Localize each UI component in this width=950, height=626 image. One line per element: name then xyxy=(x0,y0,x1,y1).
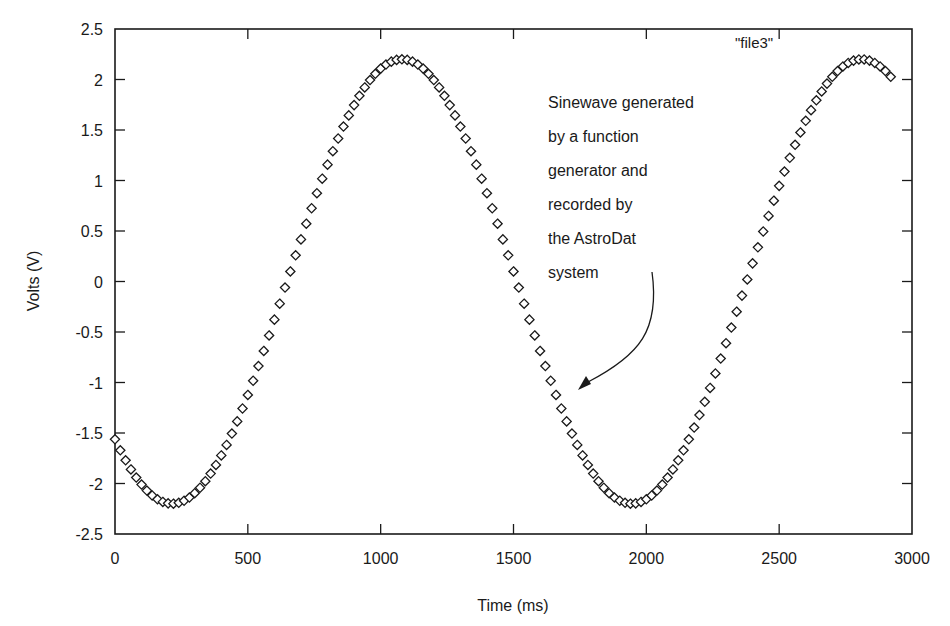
y-tick-label: -2 xyxy=(89,476,103,493)
diamond-marker-icon xyxy=(525,315,534,324)
diamond-marker-icon xyxy=(488,204,497,213)
diamond-marker-icon xyxy=(126,465,135,474)
y-tick-label: -1 xyxy=(89,375,103,392)
diamond-marker-icon xyxy=(785,153,794,162)
diamond-marker-icon xyxy=(727,323,736,332)
diamond-marker-icon xyxy=(535,346,544,355)
x-tick-label: 0 xyxy=(111,550,120,567)
diamond-marker-icon xyxy=(472,160,481,169)
diamond-marker-icon xyxy=(222,440,231,449)
diamond-marker-icon xyxy=(557,404,566,413)
diamond-marker-icon xyxy=(801,116,810,125)
diamond-marker-icon xyxy=(328,147,337,156)
diamond-marker-icon xyxy=(270,315,279,324)
plot-frame xyxy=(115,29,912,534)
y-tick-label: 0 xyxy=(94,274,103,291)
annotation: Sinewave generated by a function generat… xyxy=(548,94,694,390)
diamond-marker-icon xyxy=(509,267,518,276)
diamond-marker-icon xyxy=(668,465,677,474)
diamond-marker-icon xyxy=(551,390,560,399)
diamond-marker-icon xyxy=(711,369,720,378)
diamond-marker-icon xyxy=(743,275,752,284)
data-series-file3 xyxy=(110,55,895,509)
diamond-marker-icon xyxy=(589,469,598,478)
diamond-marker-icon xyxy=(440,91,449,100)
diamond-marker-icon xyxy=(307,204,316,213)
diamond-marker-icon xyxy=(806,106,815,115)
diamond-marker-icon xyxy=(817,87,826,96)
diamond-marker-icon xyxy=(296,235,305,244)
diamond-marker-icon xyxy=(583,460,592,469)
diamond-marker-icon xyxy=(233,417,242,426)
diamond-marker-icon xyxy=(705,383,714,392)
diamond-marker-icon xyxy=(435,83,444,92)
diamond-marker-icon xyxy=(684,435,693,444)
y-axis-title: Volts (V) xyxy=(25,251,42,311)
diamond-marker-icon xyxy=(132,473,141,482)
annotation-line: by a function xyxy=(548,128,639,145)
diamond-marker-icon xyxy=(700,397,709,406)
x-tick-label: 2000 xyxy=(629,550,665,567)
diamond-marker-icon xyxy=(578,451,587,460)
diamond-marker-icon xyxy=(764,211,773,220)
annotation-line: system xyxy=(548,264,599,281)
diamond-marker-icon xyxy=(312,189,321,198)
sinewave-chart: 0500100015002000250030002.521.510.50-0.5… xyxy=(0,0,950,626)
diamond-marker-icon xyxy=(690,423,699,432)
x-tick-label: 2500 xyxy=(761,550,797,567)
annotation-line: the AstroDat xyxy=(548,230,637,247)
diamond-marker-icon xyxy=(573,440,582,449)
diamond-marker-icon xyxy=(791,140,800,149)
diamond-marker-icon xyxy=(514,283,523,292)
diamond-marker-icon xyxy=(339,122,348,131)
diamond-marker-icon xyxy=(259,346,268,355)
x-tick-label: 3000 xyxy=(894,550,930,567)
diamond-marker-icon xyxy=(482,189,491,198)
x-tick-label: 1000 xyxy=(363,550,399,567)
diamond-marker-icon xyxy=(291,251,300,260)
y-tick-label: 2.5 xyxy=(81,21,103,38)
annotation-line: recorded by xyxy=(548,196,633,213)
x-tick-label: 1500 xyxy=(496,550,532,567)
diamond-marker-icon xyxy=(546,376,555,385)
diamond-marker-icon xyxy=(520,299,529,308)
annotation-line: generator and xyxy=(548,162,648,179)
legend-label: "file3" xyxy=(735,34,773,51)
diamond-marker-icon xyxy=(360,83,369,92)
diamond-marker-icon xyxy=(275,299,284,308)
diamond-marker-icon xyxy=(243,390,252,399)
diamond-marker-icon xyxy=(254,361,263,370)
diamond-marker-icon xyxy=(461,134,470,143)
diamond-marker-icon xyxy=(344,111,353,120)
diamond-marker-icon xyxy=(466,147,475,156)
diamond-marker-icon xyxy=(498,235,507,244)
diamond-marker-icon xyxy=(530,331,539,340)
diamond-marker-icon xyxy=(674,456,683,465)
diamond-marker-icon xyxy=(732,307,741,316)
diamond-marker-icon xyxy=(748,259,757,268)
diamond-marker-icon xyxy=(217,451,226,460)
diamond-marker-icon xyxy=(280,283,289,292)
diamond-marker-icon xyxy=(780,167,789,176)
x-axis-title: Time (ms) xyxy=(477,597,548,614)
diamond-marker-icon xyxy=(477,174,486,183)
diamond-marker-icon xyxy=(721,339,730,348)
diamond-marker-icon xyxy=(323,160,332,169)
diamond-marker-icon xyxy=(759,227,768,236)
y-tick-label: -1.5 xyxy=(75,425,103,442)
y-tick-label: 1.5 xyxy=(81,122,103,139)
diamond-marker-icon xyxy=(350,101,359,110)
y-tick-label: 2 xyxy=(94,72,103,89)
diamond-marker-icon xyxy=(318,174,327,183)
diamond-marker-icon xyxy=(562,417,571,426)
diamond-marker-icon xyxy=(334,134,343,143)
diamond-marker-icon xyxy=(796,128,805,137)
diamond-marker-icon xyxy=(249,376,258,385)
diamond-marker-icon xyxy=(695,410,704,419)
diamond-marker-icon xyxy=(121,456,130,465)
diamond-marker-icon xyxy=(663,473,672,482)
diamond-marker-icon xyxy=(110,435,119,444)
diamond-marker-icon xyxy=(679,446,688,455)
annotation-line: Sinewave generated xyxy=(548,94,694,111)
y-tick-label: -0.5 xyxy=(75,324,103,341)
